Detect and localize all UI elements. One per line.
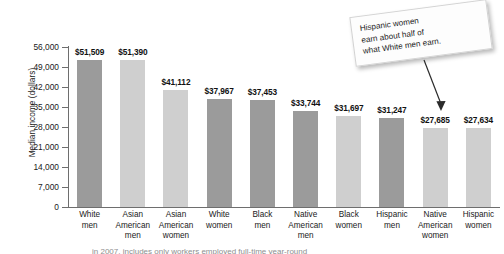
- bar: [379, 118, 404, 207]
- category-label-line: American: [115, 221, 150, 230]
- y-axis-tick-label: 56,000: [33, 42, 59, 52]
- bar-group: $31,697Blackwomen: [327, 47, 370, 207]
- category-label-line: Hispanic: [463, 210, 494, 219]
- category-label-line: Asian: [166, 210, 186, 219]
- category-label-line: American: [159, 221, 194, 230]
- bar-group: $31,247Hispanicmen: [370, 47, 413, 207]
- category-label-line: women: [422, 231, 448, 240]
- category-label-line: women: [163, 231, 189, 240]
- bar-value-label: $27,634: [464, 115, 493, 125]
- bar-value-label: $37,967: [205, 86, 234, 96]
- bar-group: $37,967Whitewomen: [198, 47, 241, 207]
- category-label-line: men: [254, 221, 270, 230]
- category-label-line: Hispanic: [376, 210, 407, 219]
- bar: [207, 99, 232, 207]
- y-axis-tick-label: 49,000: [33, 62, 59, 72]
- y-axis-tick-label: 35,000: [33, 102, 59, 112]
- bar-value-label: $41,112: [162, 77, 191, 87]
- category-label-line: women: [206, 221, 232, 230]
- bar: [466, 128, 491, 207]
- bar-value-label: $33,744: [291, 98, 320, 108]
- bar-group: $37,453Blackmen: [241, 47, 284, 207]
- y-axis-tick: 0: [62, 207, 68, 208]
- bar-value-label: $37,453: [248, 87, 277, 97]
- category-label-line: American: [418, 221, 453, 230]
- category-label-line: men: [125, 231, 141, 240]
- category-label-line: men: [384, 221, 400, 230]
- y-axis-tick-label: 21,000: [33, 142, 59, 152]
- bar: [163, 90, 188, 207]
- category-label-line: Black: [252, 210, 272, 219]
- category-label-line: Black: [339, 210, 359, 219]
- callout-arrow-icon: [420, 58, 460, 114]
- bar-group: $27,634Hispanicwomen: [457, 47, 500, 207]
- x-axis-category-label: Hispanicwomen: [452, 210, 504, 231]
- bar: [120, 60, 145, 207]
- bar: [250, 100, 275, 207]
- bar-group: $51,390AsianAmericanmen: [111, 47, 154, 207]
- bar-value-label: $51,509: [75, 47, 104, 57]
- category-label-line: White: [209, 210, 230, 219]
- bar: [336, 116, 361, 207]
- category-label-line: women: [465, 221, 491, 230]
- bar-group: $33,744NativeAmericanmen: [284, 47, 327, 207]
- bar-value-label: $27,685: [421, 115, 450, 125]
- bar: [77, 60, 102, 207]
- y-axis-tick-label: 42,000: [33, 82, 59, 92]
- y-axis-tick-label: 14,000: [33, 162, 59, 172]
- category-label-line: Asian: [123, 210, 143, 219]
- category-label-line: American: [288, 221, 323, 230]
- bar: [293, 111, 318, 207]
- category-label-line: White: [79, 210, 100, 219]
- bottom-caption: in 2007, includes only workers employed …: [92, 247, 492, 254]
- y-axis-tick-label: 7,000: [38, 182, 59, 192]
- category-label-line: men: [82, 221, 98, 230]
- bar-value-label: $51,390: [118, 47, 147, 57]
- bar-group: $41,112AsianAmericanwomen: [154, 47, 197, 207]
- category-label-line: Native: [294, 210, 317, 219]
- bar-value-label: $31,247: [377, 105, 406, 115]
- category-label-line: men: [298, 231, 314, 240]
- category-label-line: women: [336, 221, 362, 230]
- bar-value-label: $31,697: [334, 103, 363, 113]
- bar: [423, 128, 448, 207]
- median-income-bar-chart: Median income (dollars) 56,00049,00042,0…: [0, 0, 504, 254]
- y-axis-tick-label: 0: [54, 202, 59, 212]
- callout-text: Hispanic women earn about half of what W…: [359, 7, 484, 57]
- category-label-line: Native: [424, 210, 447, 219]
- x-axis-line: [68, 207, 500, 208]
- bar-group: $51,509Whitemen: [68, 47, 111, 207]
- y-axis-tick-label: 28,000: [33, 122, 59, 132]
